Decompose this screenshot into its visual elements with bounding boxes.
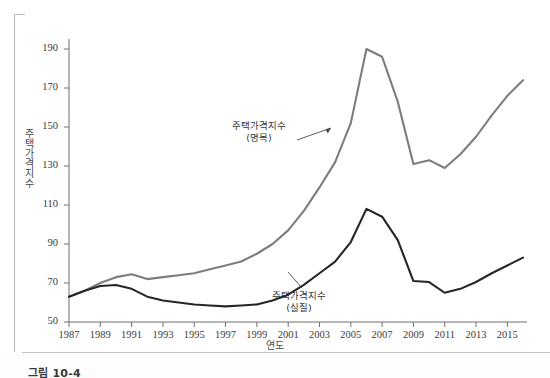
annotation-real: 주택가격지수 (실질) [272, 290, 326, 314]
page-footer-area [0, 353, 550, 378]
y-axis-tick-label: 190 [32, 42, 58, 53]
series-line-nominal [69, 49, 523, 297]
x-axis-tick-label: 2015 [487, 329, 527, 340]
page-edge-rule-cap [14, 14, 25, 15]
y-axis-tick-label: 130 [32, 159, 58, 170]
y-axis-tick-label: 70 [32, 276, 58, 287]
annotation-nominal-line2: (명목) [232, 132, 286, 144]
leader-nominal-arrowhead [326, 128, 332, 133]
y-axis-tick-label: 110 [32, 198, 58, 209]
y-axis-title: 주택가격지수 [18, 128, 34, 188]
y-axis-tick-label: 50 [32, 315, 58, 326]
annotation-nominal-line1: 주택가격지수 [232, 120, 286, 132]
leader-real [288, 272, 302, 288]
annotation-nominal: 주택가격지수 (명목) [232, 120, 286, 144]
y-axis-tick-label: 150 [32, 120, 58, 131]
y-axis-tick-label: 90 [32, 237, 58, 248]
page-edge-rule [14, 14, 15, 352]
annotation-real-line2: (실질) [272, 302, 326, 314]
chart-area: 주택가격지수 연도 주택가격지수 (명목) 주택가격지수 (실질) 507090… [0, 0, 550, 355]
figure-caption: 그림 10-4 [28, 364, 81, 378]
annotation-real-line1: 주택가격지수 [272, 290, 326, 302]
y-axis-tick-label: 170 [32, 81, 58, 92]
